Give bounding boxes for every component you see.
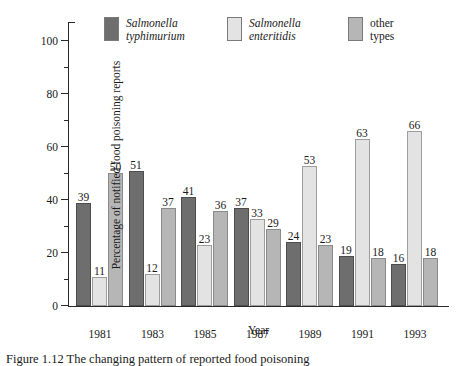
bar-value-label-1993-series-2: 18 <box>425 246 437 258</box>
bar-value-label-1993-series-0: 16 <box>393 252 405 264</box>
bar-value-label-1989-series-1: 53 <box>304 154 316 166</box>
y-tick-80 <box>61 93 68 94</box>
bar-1991-series-2: 18 <box>371 258 386 306</box>
bar-1993-series-2: 18 <box>423 258 438 306</box>
bar-1993-series-1: 66 <box>407 131 422 306</box>
y-tick-50 <box>64 173 68 174</box>
y-tick-0 <box>61 305 68 306</box>
y-tick-70 <box>64 120 68 121</box>
bar-1987-series-0: 37 <box>234 208 249 306</box>
bar-1993-series-0: 16 <box>391 264 406 306</box>
bar-value-label-1981-series-1: 11 <box>94 265 105 277</box>
y-tick-label-60: 60 <box>47 141 59 153</box>
bar-1983-series-1: 12 <box>145 274 160 306</box>
y-axis-title: Percentage of notified food poisoning re… <box>110 60 122 269</box>
bar-1989-series-1: 53 <box>302 166 317 306</box>
bar-value-label-1991-series-2: 18 <box>372 246 384 258</box>
y-tick-90 <box>64 67 68 68</box>
bar-value-label-1991-series-1: 63 <box>356 127 368 139</box>
y-tick-40 <box>61 199 68 200</box>
bar-1981-series-0: 39 <box>76 203 91 306</box>
bar-group-1987: 3733291987 <box>234 41 282 306</box>
y-tick-label-40: 40 <box>47 194 59 206</box>
y-axis-line <box>68 22 69 307</box>
bar-group-1989: 2453231989 <box>286 41 334 306</box>
bar-group-1985: 4123361985 <box>181 41 229 306</box>
bar-1981-series-1: 11 <box>92 277 107 306</box>
figure-caption: Figure 1.12 The changing pattern of repo… <box>6 352 451 366</box>
bar-value-label-1983-series-0: 51 <box>130 159 142 171</box>
bar-group-1993: 1666181993 <box>391 41 439 306</box>
y-tick-label-80: 80 <box>47 88 59 100</box>
bar-1991-series-0: 19 <box>339 256 354 306</box>
bar-value-label-1987-series-1: 33 <box>251 207 263 219</box>
x-axis-title: Year <box>68 324 449 336</box>
bar-1991-series-1: 63 <box>355 139 370 306</box>
bar-group-1983: 5112371983 <box>129 41 177 306</box>
bar-1987-series-2: 29 <box>266 229 281 306</box>
bar-1989-series-0: 24 <box>286 242 301 306</box>
bar-1989-series-2: 23 <box>318 245 333 306</box>
bar-value-label-1991-series-0: 19 <box>340 244 352 256</box>
bar-group-1991: 1963181991 <box>339 41 387 306</box>
bar-1987-series-1: 33 <box>250 219 265 306</box>
y-tick-label-100: 100 <box>41 35 58 47</box>
y-tick-60 <box>61 146 68 147</box>
bar-value-label-1985-series-1: 23 <box>199 233 211 245</box>
bar-value-label-1983-series-1: 12 <box>146 262 158 274</box>
bar-value-label-1993-series-1: 66 <box>409 119 421 131</box>
bar-1985-series-0: 41 <box>181 197 196 306</box>
bar-value-label-1989-series-0: 24 <box>288 230 300 242</box>
bar-value-label-1987-series-2: 29 <box>267 217 279 229</box>
y-tick-30 <box>64 226 68 227</box>
bar-1983-series-2: 37 <box>161 208 176 306</box>
bar-value-label-1983-series-2: 37 <box>162 196 174 208</box>
plot-area: 020406080100 391150198151123719834123361… <box>68 22 449 307</box>
bar-value-label-1985-series-0: 41 <box>183 185 195 197</box>
bar-1985-series-1: 23 <box>197 245 212 306</box>
y-axis-top-cap <box>68 22 75 23</box>
y-tick-label-20: 20 <box>47 247 59 259</box>
bar-value-label-1981-series-0: 39 <box>78 191 90 203</box>
bar-value-label-1989-series-2: 23 <box>320 233 332 245</box>
bar-value-label-1985-series-2: 36 <box>215 199 227 211</box>
y-tick-100 <box>61 40 68 41</box>
x-axis-line <box>68 306 449 307</box>
bar-1985-series-2: 36 <box>213 211 228 306</box>
bar-value-label-1987-series-0: 37 <box>235 196 247 208</box>
y-tick-20 <box>61 252 68 253</box>
bar-1983-series-0: 51 <box>129 171 144 306</box>
y-tick-label-0: 0 <box>52 300 58 312</box>
y-tick-10 <box>64 279 68 280</box>
